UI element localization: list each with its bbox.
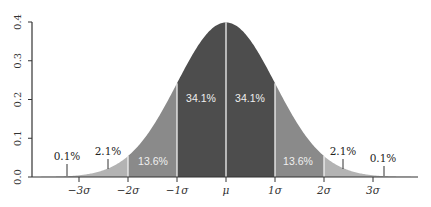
y-tick-label: 0.1 bbox=[12, 130, 23, 146]
region-2-to-3-sigma bbox=[324, 156, 373, 177]
pct-label-mean-to-1-sigma: 34.1% bbox=[235, 92, 265, 104]
x-tick-label: −2σ bbox=[117, 184, 140, 196]
normal-distribution-chart: 0.00.10.20.30.4 −3σ−2σ−1σμ1σ2σ3σ 0.1%2.1… bbox=[0, 0, 431, 207]
region-minus-3-to-minus-2-sigma bbox=[79, 156, 128, 177]
y-tick-label: 0.4 bbox=[12, 14, 23, 30]
pct-label-minus-1-sigma-to-mean: 34.1% bbox=[186, 92, 216, 104]
pct-label-minus-3-to-minus-2-sigma: 2.1% bbox=[95, 145, 122, 157]
y-tick-label: 0.3 bbox=[12, 53, 23, 69]
x-tick-label: −1σ bbox=[166, 184, 189, 196]
x-tick-label: −3σ bbox=[68, 184, 91, 196]
x-tick-label: 1σ bbox=[268, 184, 283, 196]
y-tick-label: 0.0 bbox=[12, 169, 23, 185]
y-tick-label: 0.2 bbox=[12, 92, 23, 108]
pct-label-minus-2-to-minus-1-sigma: 13.6% bbox=[138, 155, 168, 167]
pct-label-1-to-2-sigma: 13.6% bbox=[283, 155, 313, 167]
pct-label-below-minus-3sigma: 0.1% bbox=[54, 150, 81, 162]
pct-label-above-3-sigma: 0.1% bbox=[370, 152, 397, 164]
x-tick-label: 3σ bbox=[366, 184, 381, 196]
x-tick-label: μ bbox=[223, 184, 230, 196]
pct-label-2-to-3-sigma: 2.1% bbox=[330, 145, 357, 157]
x-tick-label: 2σ bbox=[316, 184, 332, 196]
